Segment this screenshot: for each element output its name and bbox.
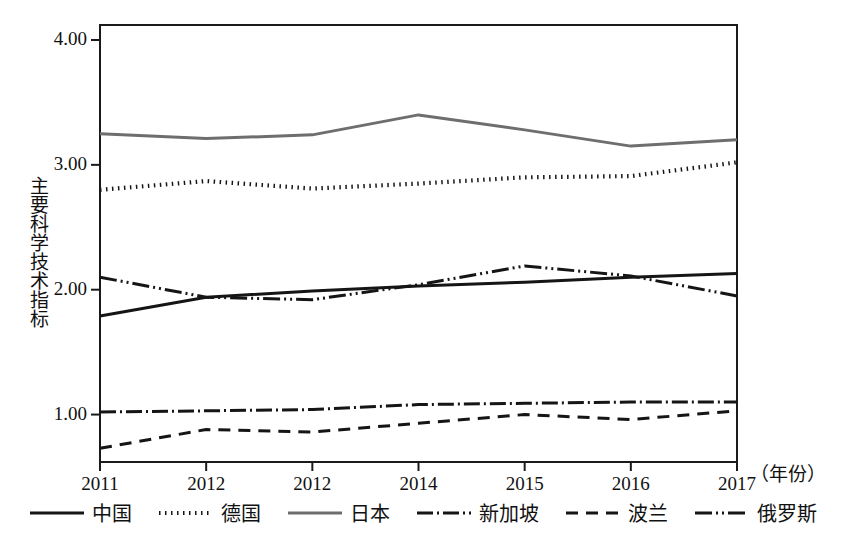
- legend-label-4: 新加坡: [479, 498, 539, 527]
- legend-swatch-2: [158, 506, 214, 520]
- x-tick-label: 2015: [485, 473, 565, 495]
- y-tick-label: 4.00: [31, 28, 87, 50]
- legend-swatch-4: [416, 506, 472, 520]
- legend-swatch-1: [29, 506, 85, 520]
- series-line-3: [100, 115, 737, 146]
- legend-item-5: 波兰: [565, 498, 668, 527]
- legend-item-2: 德国: [158, 498, 261, 527]
- legend-label-1: 中国: [92, 498, 132, 527]
- legend-label-3: 日本: [350, 498, 390, 527]
- series-line-6: [100, 266, 737, 300]
- plot-frame: [100, 25, 737, 462]
- chart-legend: 中国德国日本新加坡波兰俄罗斯: [0, 498, 846, 527]
- x-tick-label: 2016: [591, 473, 671, 495]
- x-axis-unit-label: （年份）: [750, 459, 826, 486]
- legend-item-4: 新加坡: [416, 498, 539, 527]
- legend-swatch-5: [565, 506, 621, 520]
- legend-swatch-6: [694, 506, 750, 520]
- legend-label-6: 俄罗斯: [757, 498, 817, 527]
- legend-label-5: 波兰: [628, 498, 668, 527]
- legend-label-2: 德国: [221, 498, 261, 527]
- y-tick-label: 3.00: [31, 153, 87, 175]
- x-tick-label: 2014: [379, 473, 459, 495]
- legend-item-3: 日本: [287, 498, 390, 527]
- series-line-4: [100, 402, 737, 412]
- series-line-2: [100, 162, 737, 189]
- chart-figure: 主要科学技术指标 1.002.003.004.00 20112012201220…: [0, 0, 846, 552]
- plot-area: [0, 0, 846, 552]
- legend-swatch-3: [287, 506, 343, 520]
- x-tick-label: 2012: [272, 473, 352, 495]
- y-tick-label: 2.00: [31, 278, 87, 300]
- y-tick-label: 1.00: [31, 403, 87, 425]
- series-line-5: [100, 411, 737, 448]
- legend-item-1: 中国: [29, 498, 132, 527]
- x-tick-label: 2011: [60, 473, 140, 495]
- x-tick-label: 2012: [166, 473, 246, 495]
- series-line-1: [100, 273, 737, 315]
- legend-item-6: 俄罗斯: [694, 498, 817, 527]
